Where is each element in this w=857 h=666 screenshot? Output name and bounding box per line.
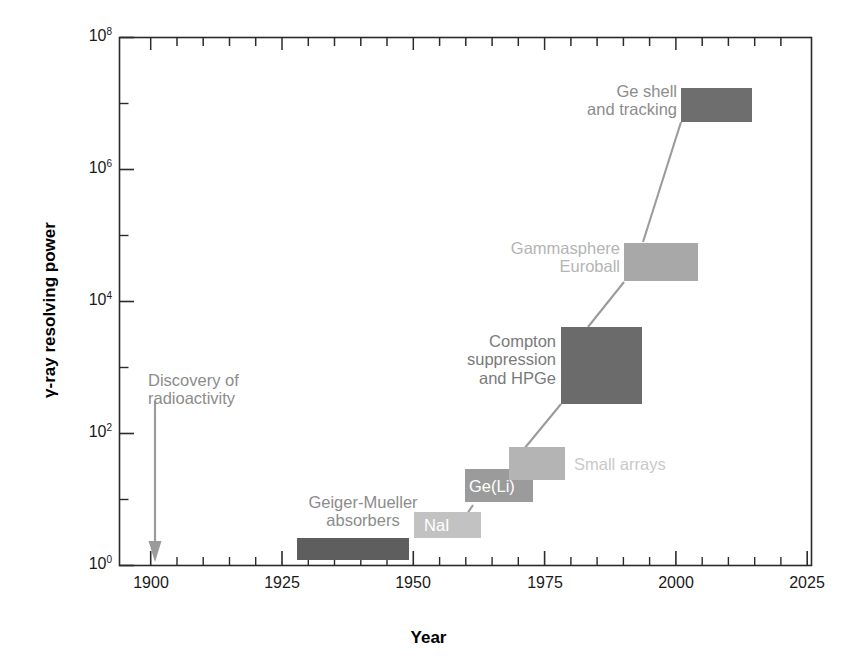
y-tick-exp-8: 8 <box>106 26 112 37</box>
y-major-ticks <box>120 38 135 566</box>
discovery-arrow <box>149 401 162 562</box>
y-tick-label-1e4: 104 <box>50 290 112 309</box>
x-tick-label-1950: 1950 <box>377 574 449 592</box>
x-tick-label-2000: 2000 <box>640 574 712 592</box>
box-small-arrays <box>509 447 565 480</box>
box-gammasphere-euroball <box>624 243 698 281</box>
inbox-label-nai: NaI <box>424 517 450 534</box>
box-ge-shell-and-tracking <box>681 88 752 122</box>
caption-line-2: and tracking <box>485 100 677 118</box>
y-tick-exp-0: 0 <box>106 554 112 565</box>
data-boxes <box>297 88 752 560</box>
caption-line-3: and HPGe <box>378 369 556 387</box>
gamma-ray-resolving-power-chart: Year γ-ray resolving power 108 106 104 1… <box>0 0 857 666</box>
annotation-line-1: Discovery of <box>148 371 239 389</box>
caption-line-2: Euroball <box>430 257 620 275</box>
x-tick-label-1975: 1975 <box>509 574 581 592</box>
caption-line-1: Geiger-Mueller <box>276 493 450 511</box>
x-minor-ticks <box>177 557 781 566</box>
caption-line-2: suppression <box>378 350 556 368</box>
annotation-discovery-of-radioactivity: Discovery of radioactivity <box>148 371 239 408</box>
caption-gammasphere-euroball: Gammasphere Euroball <box>430 239 620 276</box>
connector-compton-gammasphere <box>588 282 624 327</box>
box-geiger-mueller-absorbers <box>297 538 409 560</box>
x-tick-label-1925: 1925 <box>246 574 318 592</box>
caption-small-arrays: Small arrays <box>574 455 734 473</box>
y-tick-label-1e6: 106 <box>50 158 112 177</box>
annotation-line-2: radioactivity <box>148 389 239 407</box>
connector-gammasphere-geshell <box>643 122 681 242</box>
x-axis-title: Year <box>0 628 857 648</box>
y-tick-label-1e0: 100 <box>50 554 112 573</box>
x-tick-label-2025: 2025 <box>771 574 843 592</box>
y-tick-label-1e2: 102 <box>50 422 112 441</box>
x-major-ticks <box>151 551 808 566</box>
y-tick-exp-4: 4 <box>106 290 112 301</box>
y-tick-label-1e8: 108 <box>50 26 112 45</box>
box-compton-suppression-hpge <box>561 327 642 404</box>
x-top-ticks <box>151 38 781 51</box>
caption-ge-shell-and-tracking: Ge shell and tracking <box>485 82 677 119</box>
caption-line-1: Ge shell <box>485 82 677 100</box>
y-tick-exp-2: 2 <box>106 422 112 433</box>
x-tick-label-1900: 1900 <box>115 574 187 592</box>
caption-line-1: Gammasphere <box>430 239 620 257</box>
inbox-label-ge-li: Ge(Li) <box>469 478 515 495</box>
caption-line-1: Compton <box>378 332 556 350</box>
caption-line-1: Small arrays <box>574 455 734 473</box>
y-tick-exp-6: 6 <box>106 158 112 169</box>
connector-smallarrays-compton <box>524 404 561 449</box>
caption-compton-suppression-hpge: Compton suppression and HPGe <box>378 332 556 387</box>
